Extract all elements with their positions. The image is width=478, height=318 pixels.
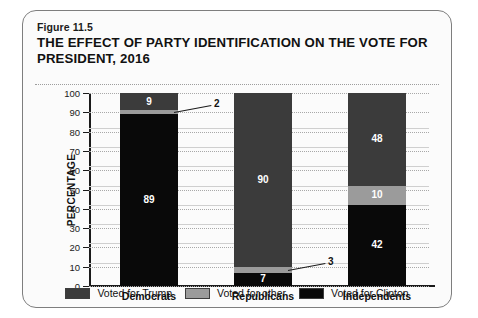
bar-republicans: 7390 [234,93,292,286]
legend-label: Voted for other [217,287,286,299]
y-tick [83,267,89,268]
bar-value-label: 89 [143,195,154,205]
bar-segment: 90 [234,93,292,267]
y-tick [83,112,89,113]
bar-value-label: 42 [371,240,382,250]
y-tick [83,170,89,171]
y-tick [83,132,89,133]
y-tick [83,228,89,229]
callout-label: 3 [328,256,334,267]
bar-segment: 10 [348,186,406,205]
figure-number: Figure 11.5 [37,21,93,33]
bar-value-label: 10 [371,190,382,200]
bar-value-label: 9 [146,97,152,107]
bar-segment: 7 [234,273,292,287]
figure-title: THE EFFECT OF PARTY IDENTIFICATION ON TH… [37,35,437,66]
bar-segment: 48 [348,93,406,186]
legend-label: Voted for Trump [97,287,172,299]
y-tick [83,209,89,210]
bar-value-label: 7 [260,274,266,284]
y-tick [83,247,89,248]
bar-democrats: 8929 [120,93,178,286]
chart-legend: Voted for TrumpVoted for otherVoted for … [23,287,451,299]
y-tick [83,190,89,191]
y-tick-label: 90 [69,107,80,118]
y-tick-label: 80 [69,126,80,137]
y-tick [83,151,89,152]
legend-swatch [65,288,90,299]
bar-value-label: 48 [371,134,382,144]
chart-plot-area: PERCENTAGE 0102030405060708090100 892973… [89,93,429,286]
bar-value-label: 90 [257,175,268,185]
y-tick-label: 50 [69,184,80,195]
bar-segment: 42 [348,205,406,286]
y-tick-label: 60 [69,165,80,176]
legend-item: Voted for other [185,287,286,299]
legend-swatch [299,288,324,299]
legend-swatch [185,288,210,299]
header-divider [35,84,439,85]
figure-card: Figure 11.5 THE EFFECT OF PARTY IDENTIFI… [22,10,452,308]
legend-item: Voted for Trump [65,287,172,299]
y-tick-label: 20 [69,242,80,253]
bar-segment: 9 [120,93,178,110]
bar-segment: 3 [234,267,292,273]
y-tick-label: 70 [69,145,80,156]
y-tick-label: 40 [69,203,80,214]
legend-label: Voted for Clinton [331,287,409,299]
bar-segment: 89 [120,114,178,286]
y-tick-label: 100 [64,88,80,99]
callout-label: 2 [214,98,220,109]
y-tick-label: 30 [69,223,80,234]
legend-item: Voted for Clinton [299,287,409,299]
y-tick-label: 10 [69,261,80,272]
bar-independents: 421048 [348,93,406,286]
bar-segment: 2 [120,110,178,114]
y-tick [83,93,89,94]
